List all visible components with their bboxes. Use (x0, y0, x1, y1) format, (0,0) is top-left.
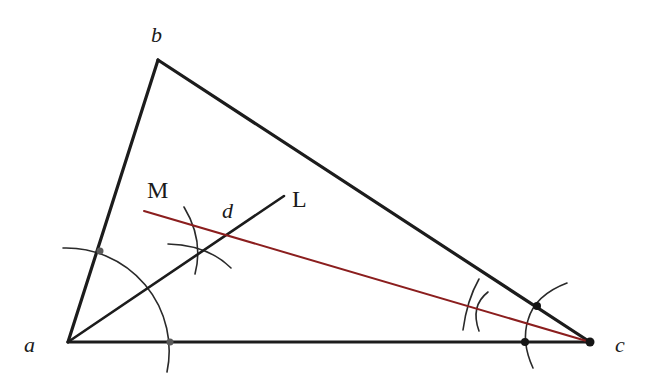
geometry-diagram: b a c d M L (0, 0, 649, 390)
arc-ac-near-c-dot (521, 338, 529, 346)
vertex-c-dot (586, 338, 595, 347)
label-b: b (151, 22, 162, 47)
bisector-arc-upper (184, 207, 198, 274)
label-L: L (292, 186, 307, 212)
bisector-ray-aL (68, 196, 284, 342)
label-d: d (222, 198, 234, 223)
label-a: a (24, 332, 35, 357)
label-c: c (615, 332, 625, 357)
arc-ac-intersection-dot (167, 339, 174, 346)
label-M: M (147, 177, 168, 203)
bisector-arc-lower (168, 244, 231, 268)
red-line-Mc (144, 211, 590, 342)
side-ab (68, 60, 158, 342)
arc-ab-intersection-dot (97, 248, 104, 255)
arc-bc-intersection-dot (533, 302, 541, 310)
